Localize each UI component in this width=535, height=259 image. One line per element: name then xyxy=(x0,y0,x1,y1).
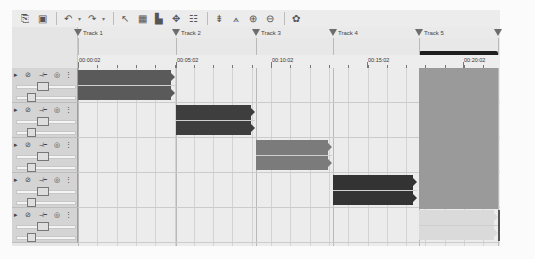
auto-ripple-button[interactable]: ✿ xyxy=(289,12,303,25)
ruler-label: 00:05:02 xyxy=(177,57,198,63)
menu-icon[interactable]: ⋮ xyxy=(64,71,72,79)
channel-divider xyxy=(176,120,255,121)
chevron-down-icon[interactable]: ▾ xyxy=(102,15,105,22)
waveform-channel-right xyxy=(256,156,328,171)
volume-slider-thumb[interactable] xyxy=(37,117,49,126)
marker-label: Track 5 xyxy=(424,30,444,36)
copy-button[interactable]: ⎘ xyxy=(18,12,32,25)
marker-4[interactable]: Track 4 xyxy=(333,27,358,38)
pan-slider-thumb[interactable] xyxy=(27,128,36,137)
audio-clip-5[interactable] xyxy=(419,210,500,241)
solo-icon[interactable]: ◎ xyxy=(50,176,64,184)
mute-icon[interactable]: ⊘ xyxy=(20,141,36,149)
volume-slider[interactable] xyxy=(16,120,76,124)
marker-flag-icon xyxy=(415,29,423,36)
volume-slider[interactable] xyxy=(16,225,76,229)
volume-slider-thumb[interactable] xyxy=(37,152,49,161)
expand-icon[interactable]: ▸ xyxy=(12,211,20,219)
marker-flag-icon xyxy=(172,29,180,36)
loop-region-bar[interactable] xyxy=(78,38,500,55)
envelope-tool-button[interactable]: ✥ xyxy=(169,12,183,25)
waveform-channel-left xyxy=(333,175,413,190)
audio-clip-1[interactable] xyxy=(78,70,175,101)
redo-icon: ↷ xyxy=(88,13,96,24)
split-tool-button[interactable]: ▦ xyxy=(135,12,149,25)
mute-icon[interactable]: ⊘ xyxy=(20,176,36,184)
volume-slider[interactable] xyxy=(16,190,76,194)
volume-slider[interactable] xyxy=(16,85,76,89)
time-selection[interactable] xyxy=(419,68,498,209)
pan-slider-thumb[interactable] xyxy=(27,163,36,172)
mute-icon[interactable]: ⊘ xyxy=(20,106,36,114)
paste-button[interactable]: ▣ xyxy=(35,12,49,25)
mute-icon[interactable]: ⊘ xyxy=(20,71,36,79)
gridline xyxy=(232,68,233,246)
menu-icon[interactable]: ⋮ xyxy=(64,106,72,114)
volume-slider-thumb[interactable] xyxy=(37,222,49,231)
route-icon[interactable]: ⊣⊢ xyxy=(36,107,50,113)
waveform-channel-left xyxy=(419,210,494,225)
redo-button[interactable]: ↷ xyxy=(85,12,99,25)
pan-slider[interactable] xyxy=(16,166,76,170)
menu-icon[interactable]: ⋮ xyxy=(64,141,72,149)
marker-3[interactable]: Track 3 xyxy=(256,27,281,38)
marker-gridline xyxy=(176,68,177,246)
toolbar: ⎘▣↶▾↷▾↖▦▙✥☷⇟⟑⊕⊖✿ xyxy=(12,10,500,27)
mixer-tool-button[interactable]: ☷ xyxy=(186,12,200,25)
volume-slider-thumb[interactable] xyxy=(37,82,49,91)
expand-icon[interactable]: ▸ xyxy=(12,141,20,149)
pan-slider-thumb[interactable] xyxy=(27,198,36,207)
undo-button[interactable]: ↶ xyxy=(61,12,75,25)
marker-2[interactable]: Track 2 xyxy=(176,27,201,38)
expand-icon[interactable]: ▸ xyxy=(12,176,20,184)
chevron-down-icon[interactable]: ▾ xyxy=(78,15,81,22)
audio-clip-2[interactable] xyxy=(176,105,255,136)
solo-icon[interactable]: ◎ xyxy=(50,141,64,149)
menu-icon[interactable]: ⋮ xyxy=(64,176,72,184)
marker-line xyxy=(498,38,499,55)
waveform-channel-left xyxy=(256,140,328,155)
route-icon[interactable]: ⊣⊢ xyxy=(36,212,50,218)
track-header-4: ▸⊘⊣⊢◎⋮ xyxy=(12,173,78,208)
pan-slider[interactable] xyxy=(16,131,76,135)
route-icon[interactable]: ⊣⊢ xyxy=(36,177,50,183)
solo-icon[interactable]: ◎ xyxy=(50,211,64,219)
select-tool-button[interactable]: ↖ xyxy=(118,12,132,25)
channel-divider xyxy=(78,85,175,86)
pencil-envelope-button[interactable]: ⟑ xyxy=(229,12,243,25)
timeline-tracks[interactable] xyxy=(78,68,500,246)
audio-clip-3[interactable] xyxy=(256,140,332,171)
marker-line xyxy=(333,38,334,55)
pan-slider[interactable] xyxy=(16,236,76,240)
snap-button[interactable]: ⇟ xyxy=(212,12,226,25)
marker-1[interactable]: Track 1 xyxy=(78,27,103,38)
expand-icon[interactable]: ▸ xyxy=(12,106,20,114)
time-ruler[interactable]: 00:00:0200:05:0200:10:0200:15:0200:20:02 xyxy=(78,55,500,69)
route-icon[interactable]: ⊣⊢ xyxy=(36,142,50,148)
ruler-label: 00:00:02 xyxy=(79,57,100,63)
route-icon[interactable]: ⊣⊢ xyxy=(36,72,50,78)
mute-icon[interactable]: ⊘ xyxy=(20,211,36,219)
marker-6[interactable] xyxy=(498,27,503,38)
audio-clip-4[interactable] xyxy=(333,175,417,206)
pan-slider-thumb[interactable] xyxy=(27,233,36,242)
marker-label: Track 3 xyxy=(261,30,281,36)
pan-slider[interactable] xyxy=(16,96,76,100)
menu-icon[interactable]: ⋮ xyxy=(64,211,72,219)
group-tool-button[interactable]: ▙ xyxy=(152,12,166,25)
marker-5[interactable]: Track 5 xyxy=(419,27,444,38)
waveform-channel-right xyxy=(78,86,171,101)
pan-slider[interactable] xyxy=(16,201,76,205)
volume-slider-thumb[interactable] xyxy=(37,187,49,196)
marker-label: Track 1 xyxy=(83,30,103,36)
pan-slider-thumb[interactable] xyxy=(27,93,36,102)
solo-icon[interactable]: ◎ xyxy=(50,106,64,114)
volume-slider[interactable] xyxy=(16,155,76,159)
channel-divider xyxy=(256,155,332,156)
marker-label: Track 2 xyxy=(181,30,201,36)
expand-icon[interactable]: ▸ xyxy=(12,71,20,79)
zoom-out-button[interactable]: ⊖ xyxy=(263,12,277,25)
zoom-in-button[interactable]: ⊕ xyxy=(246,12,260,25)
solo-icon[interactable]: ◎ xyxy=(50,71,64,79)
zoom-in-icon: ⊕ xyxy=(249,13,257,24)
